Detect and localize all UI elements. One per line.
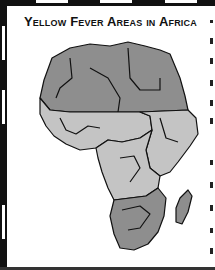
adjacent-page-text [209, 0, 215, 270]
frame-segment [100, 0, 132, 3]
figure-title: Yellow Fever Areas in Africa [24, 14, 204, 29]
page-frame-left [0, 0, 7, 270]
frame-segment [36, 0, 68, 3]
frame-segment [165, 0, 197, 3]
frame-segment [2, 205, 5, 239]
region-madagascar [176, 190, 192, 224]
frame-segment [2, 26, 5, 60]
region-north-africa [40, 42, 188, 112]
frame-segment [2, 90, 5, 124]
africa-map [10, 38, 200, 263]
